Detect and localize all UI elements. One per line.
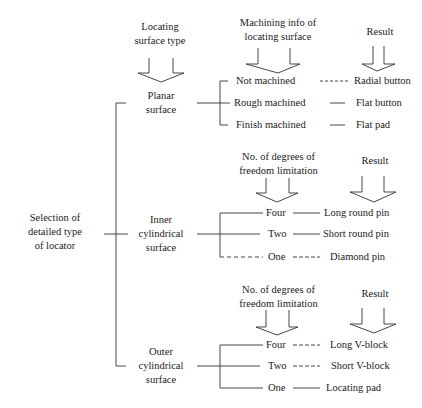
- result-item: Short V-block: [331, 359, 390, 373]
- surface-line: Planar: [130, 89, 192, 103]
- header-dof: No. of degrees of freedom limitation: [226, 150, 331, 178]
- condition-item: Two: [268, 359, 287, 373]
- arrow-down-icon: [350, 176, 396, 202]
- surface-line: Outer: [128, 345, 194, 359]
- result-item: Short round pin: [323, 227, 389, 241]
- arrow-down-icon: [362, 46, 395, 71]
- condition-item: Not machined: [236, 74, 295, 88]
- condition-item: Finish machined: [236, 118, 306, 132]
- surface-outer-cylindrical: Outer cylindrical surface: [128, 345, 194, 387]
- result-item: Radial button: [354, 74, 411, 88]
- arrow-down-icon: [256, 178, 298, 202]
- condition-item: One: [268, 250, 286, 264]
- header-surface-type: Locating surface type: [125, 20, 195, 48]
- root-line: of locator: [20, 239, 90, 253]
- root-line: detailed type: [20, 225, 90, 239]
- root-node: Selection of detailed type of locator: [20, 211, 90, 253]
- result-item: Locating pad: [326, 381, 381, 395]
- surface-line: cylindrical: [128, 359, 194, 373]
- header-result: Result: [355, 25, 405, 39]
- header-line: locating surface: [228, 30, 328, 44]
- surface-line: surface: [128, 241, 194, 255]
- header-dof: No. of degrees of freedom limitation: [226, 283, 331, 311]
- surface-line: Inner: [128, 213, 194, 227]
- result-item: Flat pad: [356, 118, 390, 132]
- header-line: freedom limitation: [226, 164, 331, 178]
- arrow-down-icon: [350, 308, 396, 333]
- result-item: Long V-block: [330, 338, 388, 352]
- condition-item: Rough machined: [234, 96, 305, 110]
- arrow-down-icon: [256, 310, 298, 335]
- arrow-down-icon: [138, 58, 184, 82]
- condition-item: One: [268, 381, 286, 395]
- header-line: surface type: [125, 34, 195, 48]
- header-line: freedom limitation: [226, 297, 331, 311]
- header-result: Result: [350, 287, 400, 301]
- result-item: Flat button: [356, 96, 402, 110]
- condition-item: Four: [266, 338, 286, 352]
- arrow-down-icon: [246, 48, 300, 73]
- header-result: Result: [350, 154, 400, 168]
- header-line: No. of degrees of: [226, 150, 331, 164]
- condition-item: Two: [268, 227, 287, 241]
- result-item: Diamond pin: [330, 250, 385, 264]
- header-line: No. of degrees of: [226, 283, 331, 297]
- result-item: Long round pin: [324, 206, 389, 220]
- surface-planar: Planar surface: [130, 89, 192, 117]
- header-line: Machining info of: [228, 16, 328, 30]
- header-machining-info: Machining info of locating surface: [228, 16, 328, 44]
- surface-inner-cylindrical: Inner cylindrical surface: [128, 213, 194, 255]
- surface-line: surface: [128, 373, 194, 387]
- surface-line: cylindrical: [128, 227, 194, 241]
- condition-item: Four: [266, 206, 286, 220]
- locator-selection-diagram: Selection of detailed type of locator Lo…: [0, 0, 422, 408]
- header-line: Locating: [125, 20, 195, 34]
- root-line: Selection of: [20, 211, 90, 225]
- surface-line: surface: [130, 103, 192, 117]
